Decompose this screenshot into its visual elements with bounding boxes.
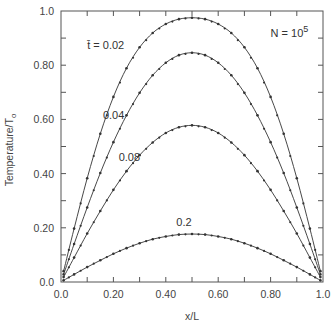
y-tick-label: 0.40	[34, 168, 55, 180]
data-point	[211, 234, 213, 236]
data-point	[112, 141, 115, 144]
data-point	[184, 233, 186, 235]
y-axis-label: Temperature/To	[3, 113, 18, 186]
data-point	[243, 242, 246, 245]
data-point	[99, 172, 102, 175]
data-point	[80, 244, 82, 246]
data-point	[151, 32, 154, 35]
annotation-superscript: 5	[303, 24, 308, 34]
data-point	[319, 276, 322, 279]
x-tick-label: 0.60	[208, 288, 229, 300]
x-tick-label: 0.20	[103, 288, 124, 300]
data-point	[73, 273, 76, 276]
x-tick-label: 0.40	[156, 288, 177, 300]
data-point	[73, 256, 76, 259]
data-point	[125, 114, 128, 117]
data-point	[151, 238, 154, 241]
data-point	[289, 189, 291, 191]
data-point	[86, 177, 89, 180]
data-point	[138, 46, 141, 49]
y-tick-label: 0.80	[34, 59, 55, 71]
data-point	[99, 210, 102, 213]
data-point	[178, 18, 181, 21]
data-point	[269, 253, 272, 256]
data-point	[197, 17, 199, 19]
data-point	[204, 233, 207, 236]
data-point	[282, 210, 285, 213]
data-point	[93, 263, 95, 265]
data-point	[309, 243, 312, 246]
data-point	[289, 263, 291, 265]
data-point	[224, 137, 226, 139]
data-point	[145, 83, 147, 85]
data-point	[191, 51, 194, 54]
data-point	[112, 189, 115, 192]
data-point	[73, 243, 76, 246]
data-point	[86, 266, 89, 269]
data-point	[211, 129, 213, 131]
data-point	[119, 81, 121, 83]
data-point	[112, 253, 115, 256]
data-point	[158, 27, 160, 29]
data-point	[217, 132, 220, 135]
data-point	[158, 68, 160, 70]
data-point	[145, 148, 147, 150]
data-point	[289, 155, 291, 157]
x-tick-label: 0.80	[260, 288, 281, 300]
data-point	[158, 237, 160, 239]
data-point	[250, 162, 252, 164]
data-point	[276, 157, 278, 159]
data-point	[224, 27, 226, 29]
data-point	[171, 58, 173, 60]
data-point	[276, 256, 278, 258]
y-tick-label: 0.0	[39, 276, 54, 288]
data-point	[119, 250, 121, 252]
data-point	[224, 68, 226, 70]
data-point	[132, 245, 134, 247]
data-point	[230, 238, 233, 241]
y-tick-label: 0.60	[34, 113, 55, 125]
data-point	[302, 244, 304, 246]
annotation: 0.04	[103, 109, 124, 121]
series-line	[64, 234, 321, 280]
data-point	[93, 155, 95, 157]
data-point	[125, 67, 128, 70]
data-point	[282, 132, 285, 135]
data-point	[296, 177, 299, 180]
data-point	[230, 141, 233, 144]
data-point	[314, 276, 316, 278]
y-axis-label-subscript: o	[9, 113, 18, 118]
data-point	[204, 126, 207, 129]
data-point	[250, 245, 252, 247]
data-point	[165, 132, 168, 135]
data-point	[119, 128, 121, 130]
data-point	[178, 233, 181, 236]
data-point	[145, 240, 147, 242]
data-point	[125, 170, 128, 173]
data-point	[204, 18, 207, 21]
data-point	[309, 227, 312, 230]
data-point	[296, 232, 299, 235]
data-point	[191, 124, 194, 127]
x-axis-label: x/L	[185, 310, 199, 322]
data-point	[237, 83, 239, 85]
data-point	[309, 256, 312, 259]
chart: 0.00.200.400.600.801.00.00.200.400.600.8…	[0, 0, 335, 325]
data-point	[145, 39, 147, 41]
series-t-0-08	[62, 124, 321, 278]
data-point	[302, 270, 304, 272]
annotation: 0.2	[176, 216, 191, 228]
data-point	[296, 266, 299, 269]
data-point	[282, 172, 285, 175]
data-point	[296, 206, 299, 209]
annotation: N = 105	[271, 24, 309, 39]
data-point	[86, 232, 89, 235]
data-point	[132, 103, 134, 105]
data-point	[171, 234, 173, 236]
data-point	[86, 206, 89, 209]
data-point	[165, 23, 168, 26]
data-point	[132, 57, 134, 59]
data-point	[230, 32, 233, 35]
data-point	[197, 53, 199, 55]
data-point	[62, 276, 65, 279]
